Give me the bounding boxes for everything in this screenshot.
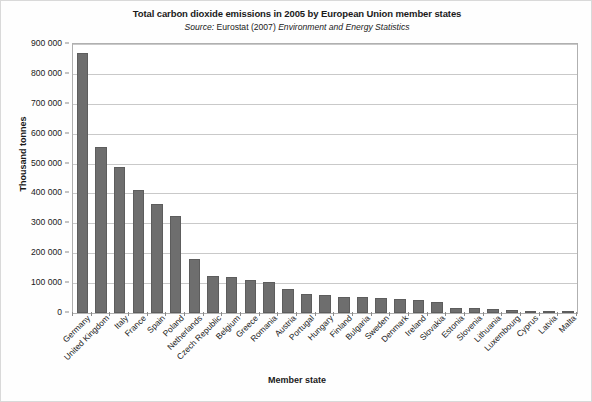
x-tick-mark — [221, 312, 222, 316]
bar[interactable] — [282, 289, 294, 313]
x-axis-tick-labels: GermanyUnited KingdomItalyFranceSpainPol… — [72, 313, 576, 375]
bar-slot — [390, 44, 409, 313]
plot-area — [72, 43, 578, 314]
bar-slot — [502, 44, 521, 313]
bar[interactable] — [319, 295, 331, 313]
y-tick-mark — [65, 132, 69, 133]
x-tick-mark — [109, 312, 110, 316]
x-tick-mark — [464, 312, 465, 316]
bar-slot — [465, 44, 484, 313]
y-tick-mark — [65, 312, 69, 313]
x-tick-mark — [277, 312, 278, 316]
subtitle-publication: Environment and Energy Statistics — [278, 22, 409, 32]
y-axis-tick-labels: 900 000800 000700 000600 000500 000400 0… — [1, 43, 69, 312]
x-tick-mark — [259, 312, 260, 316]
bar[interactable] — [114, 167, 126, 313]
bar-slot — [73, 44, 92, 313]
y-tick-label: 800 000 — [31, 68, 62, 78]
x-tick-mark — [389, 312, 390, 316]
bar-slot — [446, 44, 465, 313]
y-tick-mark — [65, 252, 69, 253]
bar[interactable] — [170, 216, 182, 313]
x-tick-mark — [203, 312, 204, 316]
bar-slot — [260, 44, 279, 313]
x-tick-mark — [333, 312, 334, 316]
page-title: Total carbon dioxide emissions in 2005 b… — [1, 7, 592, 20]
bar[interactable] — [375, 298, 387, 313]
y-tick-mark — [65, 102, 69, 103]
bar-slot — [92, 44, 111, 313]
x-tick-mark — [165, 312, 166, 316]
bar[interactable] — [413, 300, 425, 313]
x-tick-mark — [147, 312, 148, 316]
bar[interactable] — [77, 53, 89, 313]
bar[interactable] — [207, 276, 219, 313]
x-tick-mark — [72, 312, 73, 316]
bar[interactable] — [357, 297, 369, 313]
chart-figure: Total carbon dioxide emissions in 2005 b… — [0, 0, 592, 402]
bar[interactable] — [394, 299, 406, 313]
bar-slot — [409, 44, 428, 313]
x-tick-mark — [483, 312, 484, 316]
bar-slot — [148, 44, 167, 313]
bar[interactable] — [189, 259, 201, 313]
x-tick-mark — [501, 312, 502, 316]
bar[interactable] — [263, 282, 275, 313]
bar-slot — [166, 44, 185, 313]
bar-slot — [129, 44, 148, 313]
y-tick-mark — [65, 72, 69, 73]
bar[interactable] — [338, 297, 350, 313]
y-tick-mark — [65, 43, 69, 44]
bar-slot — [204, 44, 223, 313]
x-tick-mark — [184, 312, 185, 316]
bar[interactable] — [133, 190, 145, 313]
x-tick-mark — [445, 312, 446, 316]
bar-slot — [428, 44, 447, 313]
bar-slot — [484, 44, 503, 313]
subtitle-source-label: Source: — [185, 22, 215, 32]
x-tick-mark — [427, 312, 428, 316]
bar[interactable] — [151, 204, 163, 313]
x-tick-label: Latvia — [536, 313, 559, 336]
x-tick-mark — [408, 312, 409, 316]
y-tick-label: 200 000 — [31, 247, 62, 257]
bar-slot — [316, 44, 335, 313]
x-tick-label: Malta — [556, 313, 578, 335]
bar-slot — [241, 44, 260, 313]
y-tick-label: 500 000 — [31, 158, 62, 168]
x-tick-mark — [315, 312, 316, 316]
bar[interactable] — [95, 147, 107, 313]
x-tick-mark — [557, 312, 558, 316]
chart-subtitle: Source: Eurostat (2007) Environment and … — [1, 21, 592, 34]
y-tick-label: 900 000 — [31, 38, 62, 48]
x-tick-mark — [91, 312, 92, 316]
x-tick-mark — [296, 312, 297, 316]
y-tick-label: 0 — [57, 307, 62, 317]
bar[interactable] — [245, 280, 257, 313]
y-tick-mark — [65, 162, 69, 163]
bar[interactable] — [431, 302, 443, 313]
bar-slot — [521, 44, 540, 313]
subtitle-publisher: Eurostat (2007) — [217, 22, 276, 32]
bar-slot — [558, 44, 577, 313]
y-tick-label: 400 000 — [31, 187, 62, 197]
bar-series — [73, 44, 577, 313]
y-tick-label: 300 000 — [31, 217, 62, 227]
x-tick-mark — [240, 312, 241, 316]
bar[interactable] — [301, 294, 313, 313]
bar-slot — [540, 44, 559, 313]
x-tick-mark — [371, 312, 372, 316]
x-tick-mark — [128, 312, 129, 316]
bar-slot — [297, 44, 316, 313]
bar-slot — [372, 44, 391, 313]
bar-slot — [334, 44, 353, 313]
bar-slot — [353, 44, 372, 313]
bar[interactable] — [226, 277, 238, 313]
x-tick-mark — [520, 312, 521, 316]
title-block: Total carbon dioxide emissions in 2005 b… — [1, 7, 592, 34]
y-tick-label: 600 000 — [31, 128, 62, 138]
bar-slot — [222, 44, 241, 313]
bar-slot — [185, 44, 204, 313]
y-tick-mark — [65, 222, 69, 223]
bar-slot — [278, 44, 297, 313]
